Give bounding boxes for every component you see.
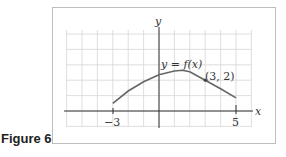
point-label: (3, 2) bbox=[205, 70, 235, 83]
y-axis-label: y bbox=[154, 15, 162, 28]
curve-label: y = f(x) bbox=[160, 58, 202, 71]
tick-label-right: 5 bbox=[232, 116, 239, 129]
tick-label-left: −3 bbox=[104, 116, 120, 129]
x-axis-label: x bbox=[255, 105, 262, 118]
figure-caption: Figure 6 bbox=[1, 131, 52, 146]
